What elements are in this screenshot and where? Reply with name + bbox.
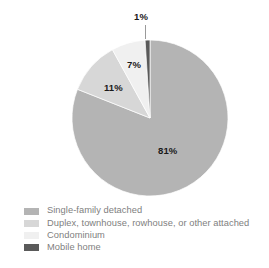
pie-slice-value-duplex-townhouse: 11% (104, 83, 123, 93)
pie-slice-value-single-family-detached: 81% (158, 146, 177, 156)
legend-item-duplex-townhouse: Duplex, townhouse, rowhouse, or other at… (24, 217, 269, 229)
legend-swatch-icon-duplex-townhouse (24, 220, 39, 227)
pie-slice-value-mobile-home: 1% (134, 12, 148, 22)
pie-slice-value-condominium: 7% (127, 60, 141, 70)
legend-label-single-family-detached: Single-family detached (47, 206, 142, 215)
legend-swatch-icon-condominium (24, 232, 39, 239)
legend-label-condominium: Condominium (47, 231, 105, 240)
mobile-home-leader-line (145, 25, 146, 39)
legend-swatch-icon-single-family-detached (24, 208, 39, 215)
pie-slice-group (72, 40, 228, 196)
legend-item-single-family-detached: Single-family detached (24, 205, 269, 217)
chart-legend: Single-family detached Duplex, townhouse… (24, 205, 269, 254)
legend-item-condominium: Condominium (24, 229, 269, 241)
legend-label-mobile-home: Mobile home (47, 243, 101, 252)
legend-item-mobile-home: Mobile home (24, 242, 269, 254)
pie-chart-plot-area (0, 0, 269, 205)
legend-label-duplex-townhouse: Duplex, townhouse, rowhouse, or other at… (47, 219, 249, 228)
legend-swatch-icon-mobile-home (24, 244, 39, 251)
pie-chart-svg (0, 0, 269, 205)
pie-chart-figure: 81% 11% 7% 1% Single-family detached Dup… (0, 0, 269, 268)
